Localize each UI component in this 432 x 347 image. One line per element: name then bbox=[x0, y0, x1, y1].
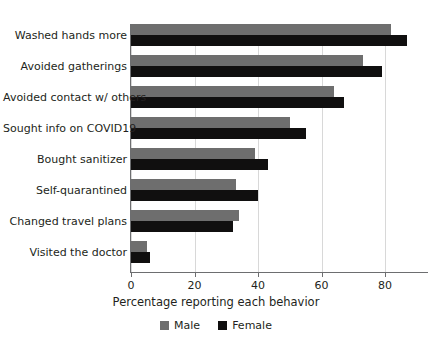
tick-mark-40 bbox=[258, 272, 259, 277]
bar-group bbox=[131, 179, 432, 210]
tick-mark-0 bbox=[131, 272, 132, 277]
bar-female bbox=[131, 97, 344, 108]
bar-group bbox=[131, 55, 432, 86]
tick-mark-60 bbox=[322, 272, 323, 277]
y-axis-line bbox=[130, 24, 131, 273]
category-label: Sought info on COVID19 bbox=[3, 123, 127, 134]
tick-label-60: 60 bbox=[315, 279, 329, 292]
legend-item-female: Female bbox=[218, 319, 272, 332]
bar-group bbox=[131, 148, 432, 179]
legend-label-male: Male bbox=[174, 319, 200, 332]
bar-female bbox=[131, 35, 407, 46]
x-axis-line bbox=[131, 272, 428, 273]
bar-group bbox=[131, 117, 432, 148]
category-label: Bought sanitizer bbox=[3, 154, 127, 165]
bar-female bbox=[131, 159, 268, 170]
legend-label-female: Female bbox=[232, 319, 272, 332]
bar-male bbox=[131, 117, 290, 128]
bar-female bbox=[131, 128, 306, 139]
bar-female bbox=[131, 66, 382, 77]
tick-label-20: 20 bbox=[188, 279, 202, 292]
female-swatch-icon bbox=[218, 321, 227, 330]
bar-group bbox=[131, 210, 432, 241]
bar-female bbox=[131, 221, 233, 232]
category-label: Self-quarantined bbox=[3, 185, 127, 196]
bar-male bbox=[131, 210, 239, 221]
bar-male bbox=[131, 55, 363, 66]
male-swatch-icon bbox=[160, 321, 169, 330]
tick-label-40: 40 bbox=[251, 279, 265, 292]
plot-area bbox=[131, 24, 432, 272]
tick-label-0: 0 bbox=[128, 279, 135, 292]
category-label: Changed travel plans bbox=[3, 216, 127, 227]
category-label: Visited the doctor bbox=[3, 247, 127, 258]
bar-male bbox=[131, 86, 334, 97]
category-labels: Washed hands moreAvoided gatheringsAvoid… bbox=[0, 24, 127, 272]
tick-mark-20 bbox=[195, 272, 196, 277]
category-label: Washed hands more bbox=[3, 30, 127, 41]
bar-group bbox=[131, 24, 432, 55]
bar-male bbox=[131, 179, 236, 190]
bar-group bbox=[131, 86, 432, 117]
bar-male bbox=[131, 148, 255, 159]
legend-item-male: Male bbox=[160, 319, 200, 332]
x-axis-title: Percentage reporting each behavior bbox=[0, 295, 432, 309]
category-label: Avoided gatherings bbox=[3, 61, 127, 72]
tick-label-80: 80 bbox=[378, 279, 392, 292]
category-label: Avoided contact w/ others bbox=[3, 92, 127, 103]
bar-group bbox=[131, 241, 432, 272]
bar-chart: 020406080 Washed hands moreAvoided gathe… bbox=[0, 0, 432, 347]
tick-mark-80 bbox=[385, 272, 386, 277]
bar-male bbox=[131, 241, 147, 252]
chart-legend: Male Female bbox=[0, 319, 432, 332]
bar-female bbox=[131, 252, 150, 263]
bar-female bbox=[131, 190, 258, 201]
bar-male bbox=[131, 24, 391, 35]
